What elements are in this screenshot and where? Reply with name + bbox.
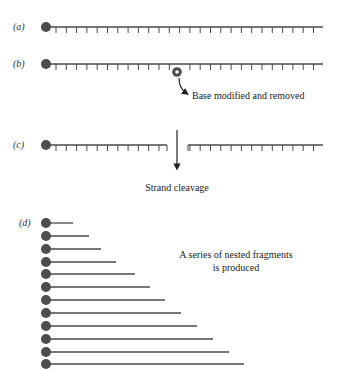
cleaved-strand [41,140,323,151]
end-label-icon [41,347,51,357]
panel-a-label: (a) [13,21,25,33]
end-label-icon [41,257,51,267]
end-label-icon [41,231,51,241]
fragment [41,218,73,228]
end-label-icon [41,321,51,331]
panel-d-label: (d) [19,217,31,229]
fragment [41,282,150,292]
fragment [41,308,181,318]
end-label-icon [41,218,51,228]
strand-with-modified-base [41,59,323,70]
end-label-icon [41,22,51,32]
end-label-icon [41,59,51,69]
end-label-icon [41,140,51,150]
fragment [41,244,101,254]
end-label-icon [41,282,51,292]
fragment [41,295,165,305]
modified-base-mark [175,70,179,74]
fragments-caption-line2: is produced [213,262,259,273]
fragment [41,334,213,344]
end-label-icon [41,244,51,254]
fragment [41,321,197,331]
base-removed-caption: Base modified and removed [192,90,304,101]
end-label-icon [41,308,51,318]
panel-c-label: (c) [13,139,25,151]
fragment [41,359,244,369]
fragment [41,347,229,357]
end-label-icon [41,334,51,344]
strand-cleavage-caption: Strand cleavage [145,182,209,193]
nested-fragments [41,218,244,369]
end-label-icon [41,359,51,369]
fragments-caption-line1: A series of nested fragments [179,249,292,260]
intact-strand [41,22,323,33]
end-label-icon [41,295,51,305]
panel-b-label: (b) [13,58,25,70]
fragment [41,269,135,279]
fragment [41,231,89,241]
removal-arrow-icon [179,78,186,93]
end-label-icon [41,269,51,279]
fragment [41,257,116,267]
dna-cleavage-diagram: (a) (b) (c) (d) Base modified and remove… [0,0,338,370]
